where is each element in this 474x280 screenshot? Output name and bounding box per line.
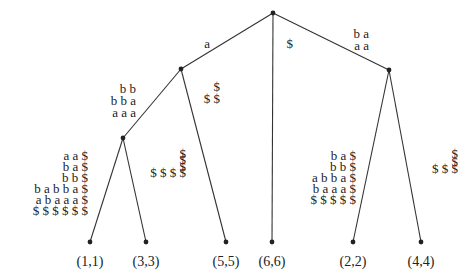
leaf-node-leaf_3 <box>144 240 149 245</box>
leaf-node-leaf_5 <box>224 240 229 245</box>
suffix-tree-diagram: a$b aa ab bb b aa a a$$ $a a $b a $b b $… <box>0 0 474 280</box>
leaf-label: (4,4) <box>408 254 435 270</box>
internal-node-n_baa <box>387 68 392 73</box>
edge-label-row: $ $ <box>204 91 221 106</box>
internal-node-n_a <box>179 67 184 72</box>
leaf-label: (2,2) <box>340 254 367 270</box>
edge-n_aa-leaf_1 <box>90 138 123 242</box>
tree-svg: a$b aa ab bb b aa a a$$ $a a $b a $b b $… <box>0 0 474 280</box>
edge-root-n_a <box>181 13 273 69</box>
edge-label-n_baa-leaf_2: b a $b b $a b b a $b a a a $$ $ $ $ $ <box>311 148 357 207</box>
edge-label-row: $ $ $ <box>432 161 459 176</box>
leaf-node-leaf_2 <box>351 240 356 245</box>
edge-label-root-n_a: a <box>204 36 210 51</box>
leaf-label: (1,1) <box>77 254 104 270</box>
edge-label-n_aa-leaf_1: a a $b a $b b $b a b b a $a b a a a $$ $… <box>33 148 89 218</box>
edge-label-n_aa-leaf_3: $$$$ $ $ $ <box>150 146 186 180</box>
leaf-node-leaf_4 <box>419 240 424 245</box>
edge-label-row: $ $ $ $ $ $ <box>33 203 89 218</box>
edge-n_baa-leaf_4 <box>389 70 421 242</box>
internal-node-root <box>271 11 276 16</box>
edge-label-n_a-leaf_5: $$ $ <box>204 79 221 106</box>
edge-label-root-leaf_6: $ <box>287 36 294 51</box>
edge-label-n_baa-leaf_4: $$$ $ $ <box>432 146 459 176</box>
leaf-label: (3,3) <box>133 254 160 270</box>
edge-root-leaf_6 <box>272 13 273 242</box>
edge-label-root-n_baa: b aa a <box>353 26 369 53</box>
leaf-node-leaf_1 <box>88 240 93 245</box>
edge-label-row: $ <box>287 36 294 51</box>
edge-label-row: $ $ $ $ $ <box>311 192 357 207</box>
edge-label-row: a a a <box>112 105 136 120</box>
edge-n_aa-leaf_3 <box>123 138 146 242</box>
leaf-node-leaf_6 <box>270 240 275 245</box>
edge-label-row: a <box>204 36 210 51</box>
edge-label-n_a-n_aa: b bb b aa a a <box>111 81 137 120</box>
leaf-label: (6,6) <box>259 254 286 270</box>
edge-label-row: a a <box>354 38 369 53</box>
leaf-label: (5,5) <box>213 254 240 270</box>
edge-label-row: $ $ $ $ <box>150 165 186 180</box>
internal-node-n_aa <box>121 136 126 141</box>
edge-n_baa-leaf_2 <box>353 70 389 242</box>
